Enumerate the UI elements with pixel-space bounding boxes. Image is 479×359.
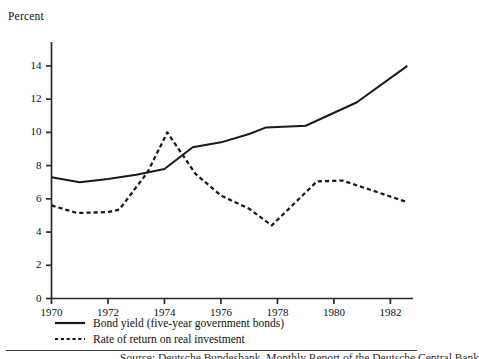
chart-legend: Bond yield (five-year government bonds) … — [55, 316, 415, 348]
legend-label-rate-of-return: Rate of return on real investment — [93, 333, 245, 345]
y-tick-label: 6 — [16, 192, 42, 204]
y-tick-label: 12 — [16, 92, 42, 104]
series-line-bond-yield — [52, 66, 408, 182]
legend-item-bond-yield: Bond yield (five-year government bonds) — [55, 316, 415, 330]
y-tick-label: 14 — [16, 59, 42, 71]
legend-item-rate-of-return: Rate of return on real investment — [55, 332, 415, 346]
source-note: Source: Deutsche Bundesbank, Monthly Rep… — [120, 352, 479, 359]
axes — [46, 42, 413, 304]
source-divider — [6, 350, 417, 351]
data-series-group — [52, 66, 408, 225]
legend-dashed-line-icon — [55, 334, 85, 344]
y-tick-label: 8 — [16, 159, 42, 171]
legend-solid-line-icon — [55, 318, 85, 328]
y-tick-label: 0 — [16, 292, 42, 304]
y-tick-label: 4 — [16, 225, 42, 237]
y-tick-label: 2 — [16, 258, 42, 270]
y-tick-label: 10 — [16, 125, 42, 137]
legend-label-bond-yield: Bond yield (five-year government bonds) — [93, 317, 284, 329]
